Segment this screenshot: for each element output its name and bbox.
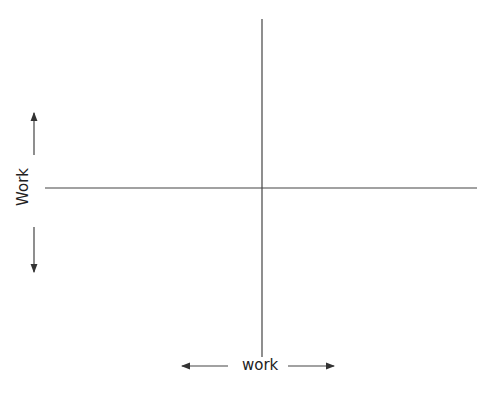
y-axis-label: Work	[14, 168, 32, 206]
quadrant-diagram	[0, 0, 500, 393]
x-axis-label: work	[242, 356, 278, 374]
